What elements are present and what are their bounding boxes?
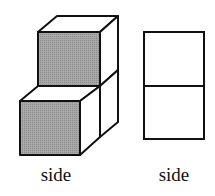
right-side-view xyxy=(144,32,204,139)
upper-cube-front-face xyxy=(38,32,100,86)
cube-diagram: side side xyxy=(0,0,215,196)
side-view-bottom-square xyxy=(144,86,204,139)
right-label: side xyxy=(159,164,190,185)
left-stacked-cubes xyxy=(20,16,118,155)
lower-cube-front-face xyxy=(20,101,80,155)
left-label: side xyxy=(41,164,72,185)
side-view-top-square xyxy=(144,32,204,86)
